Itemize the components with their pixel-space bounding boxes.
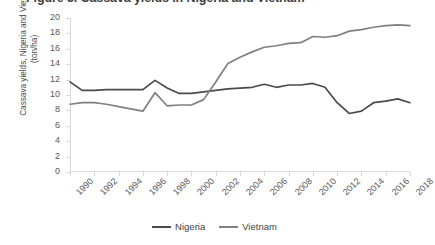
y-tick-label: 2 [55, 151, 60, 161]
x-tick-label: 1998 [171, 176, 192, 197]
x-tick [70, 172, 71, 176]
x-tick [313, 172, 314, 176]
x-tick [94, 172, 95, 176]
chart-title: Figure 3. Cassava yields in Nigeria and … [26, 0, 305, 5]
y-tick-label: 0 [55, 166, 60, 176]
y-tick-label: 4 [55, 135, 60, 145]
y-tick-label: 14 [50, 58, 60, 68]
y-tick-label: 16 [50, 43, 60, 53]
x-tick [386, 172, 387, 176]
x-tick [143, 172, 144, 176]
legend-label: Vietnam [242, 221, 277, 232]
y-tick-label: 6 [55, 120, 60, 130]
x-tick [191, 172, 192, 176]
legend-swatch-icon [219, 226, 238, 228]
x-tick [410, 172, 411, 176]
x-tick-label: 2002 [220, 176, 241, 197]
x-tick-label: 2006 [268, 176, 289, 197]
x-tick-label: 2010 [317, 176, 338, 197]
x-tick-label: 2012 [341, 176, 362, 197]
x-tick-label: 2014 [365, 176, 386, 197]
x-tick [119, 172, 120, 176]
series-line-nigeria [70, 80, 410, 113]
y-tick-label: 20 [50, 12, 60, 22]
x-tick-label: 1992 [98, 176, 119, 197]
legend-swatch-icon [152, 226, 171, 228]
legend-item-vietnam[interactable]: Vietnam [219, 221, 277, 232]
x-tick [361, 172, 362, 176]
x-tick-label: 1996 [147, 176, 168, 197]
chart-legend: NigeriaVietnam [0, 221, 429, 232]
y-tick-label: 12 [50, 74, 60, 84]
x-tick-label: 2018 [414, 176, 435, 197]
series-lines [70, 18, 410, 172]
x-tick-label: 2004 [244, 176, 265, 197]
x-tick-label: 1990 [74, 176, 95, 197]
y-tick-label: 8 [55, 104, 60, 114]
x-tick-label: 2016 [390, 176, 411, 197]
y-tick-label: 10 [50, 89, 60, 99]
legend-item-nigeria[interactable]: Nigeria [152, 221, 205, 232]
x-tick [216, 172, 217, 176]
x-tick [167, 172, 168, 176]
x-tick [337, 172, 338, 176]
series-line-vietnam [70, 25, 410, 111]
y-axis-title: Cassava yields, Nigeria and Vietnam (ton… [18, 0, 40, 122]
x-tick [264, 172, 265, 176]
legend-label: Nigeria [175, 221, 205, 232]
plot-area: 02468101214161820 1990199219941996199820… [70, 18, 410, 172]
x-tick-label: 1994 [122, 176, 143, 197]
x-tick-label: 2000 [195, 176, 216, 197]
x-tick [289, 172, 290, 176]
x-tick [240, 172, 241, 176]
y-tick-label: 18 [50, 27, 60, 37]
x-tick-label: 2008 [292, 176, 313, 197]
